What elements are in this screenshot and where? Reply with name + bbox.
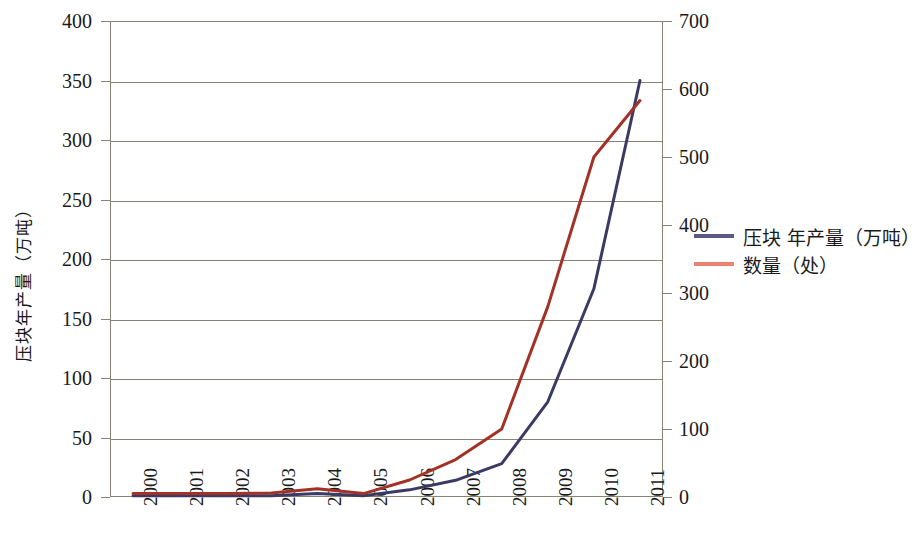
left-tick-label: 0 bbox=[22, 487, 92, 507]
right-tick-mark bbox=[663, 89, 672, 90]
legend-item-0: 压块 年产量（万吨） bbox=[694, 222, 920, 250]
left-tick-mark bbox=[101, 140, 110, 141]
x-tick-label: 2001 bbox=[187, 468, 206, 506]
left-tick-mark bbox=[101, 497, 110, 498]
gridline bbox=[111, 379, 662, 380]
right-tick-label: 0 bbox=[679, 487, 689, 507]
right-tick-label: 300 bbox=[679, 283, 709, 303]
gridline bbox=[111, 141, 662, 142]
x-tick-label: 2010 bbox=[602, 468, 621, 506]
right-tick-label: 500 bbox=[679, 147, 709, 167]
x-tick-label: 2011 bbox=[648, 469, 667, 506]
x-tick-label: 2007 bbox=[464, 468, 483, 506]
right-tick-mark bbox=[663, 293, 672, 294]
y-axis-title-left-text: 压块年产量（万吨） bbox=[10, 199, 35, 361]
left-tick-label: 250 bbox=[22, 190, 92, 210]
left-tick-label: 300 bbox=[22, 130, 92, 150]
legend: 压块 年产量（万吨） 数量（处） bbox=[694, 222, 920, 278]
x-tick-label: 2004 bbox=[325, 468, 344, 506]
left-tick-mark bbox=[101, 259, 110, 260]
left-tick-mark bbox=[101, 81, 110, 82]
legend-label-0: 压块 年产量（万吨） bbox=[743, 223, 920, 250]
gridline bbox=[111, 82, 662, 83]
right-tick-mark bbox=[663, 361, 672, 362]
x-tick-label: 2006 bbox=[418, 468, 437, 506]
x-tick-label: 2005 bbox=[371, 468, 390, 506]
left-tick-label: 100 bbox=[22, 368, 92, 388]
left-tick-label: 50 bbox=[22, 428, 92, 448]
left-tick-mark bbox=[101, 200, 110, 201]
legend-swatch-blue-icon bbox=[694, 234, 734, 238]
x-tick-label: 2003 bbox=[279, 468, 298, 506]
right-tick-mark bbox=[663, 225, 672, 226]
left-tick-mark bbox=[101, 438, 110, 439]
right-tick-label: 100 bbox=[679, 419, 709, 439]
left-tick-mark bbox=[101, 21, 110, 22]
gridline bbox=[111, 260, 662, 261]
left-tick-mark bbox=[101, 319, 110, 320]
gridline bbox=[111, 439, 662, 440]
left-tick-label: 400 bbox=[22, 11, 92, 31]
right-tick-label: 200 bbox=[679, 351, 709, 371]
x-tick-label: 2009 bbox=[556, 468, 575, 506]
gridline bbox=[111, 201, 662, 202]
legend-swatch-red-icon bbox=[694, 262, 734, 266]
left-tick-label: 350 bbox=[22, 71, 92, 91]
chart-container: 压块年产量（万吨） 050100150200250300350400 01002… bbox=[0, 0, 924, 557]
x-tick-label: 2002 bbox=[233, 468, 252, 506]
x-tick-label: 2000 bbox=[141, 468, 160, 506]
x-tick-label: 2008 bbox=[510, 468, 529, 506]
legend-item-1: 数量（处） bbox=[694, 250, 920, 278]
right-tick-mark bbox=[663, 157, 672, 158]
right-tick-label: 600 bbox=[679, 79, 709, 99]
gridline bbox=[111, 320, 662, 321]
plot-area bbox=[110, 21, 663, 497]
right-tick-mark bbox=[663, 21, 672, 22]
left-tick-label: 200 bbox=[22, 249, 92, 269]
right-tick-mark bbox=[663, 429, 672, 430]
right-tick-label: 700 bbox=[679, 11, 709, 31]
left-tick-label: 150 bbox=[22, 309, 92, 329]
left-tick-mark bbox=[101, 378, 110, 379]
legend-label-1: 数量（处） bbox=[743, 251, 838, 278]
